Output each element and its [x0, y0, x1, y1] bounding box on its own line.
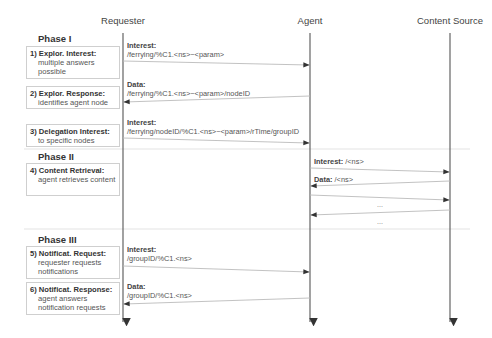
phase-2-title: Phase II	[38, 151, 74, 162]
lifelines	[123, 33, 450, 322]
message-name: /groupID/%C1.<ns>	[127, 291, 192, 300]
message-name: /<ns>	[343, 157, 364, 166]
message-name: /groupID/%C1.<ns>	[127, 254, 192, 263]
message-arrow	[310, 168, 449, 172]
step-description: to specific nodes	[30, 136, 116, 145]
step-heading: 5) Notificat. Request:	[30, 249, 106, 258]
ellipsis-1: ...	[377, 201, 383, 208]
phase-3-title: Phase III	[38, 234, 77, 245]
step-heading: 1) Explor. Interest:	[30, 49, 96, 58]
step-description: multiple answers possible	[30, 58, 116, 76]
step-description: requester requests notifications	[30, 258, 116, 276]
step-heading: 3) Delegation Interest:	[30, 127, 110, 136]
ellipsis-2: ...	[377, 218, 383, 225]
step-heading: 4) Content Retrieval:	[30, 166, 104, 175]
message-kind: Data:	[127, 80, 250, 89]
step-box-notification-response: 6) Notificat. Response:agent answers not…	[26, 282, 120, 315]
actor-requester: Requester	[101, 15, 145, 26]
step-box-content-retrieval: 4) Content Retrieval:agent retrieves con…	[26, 163, 120, 196]
message-name: /<ns>	[332, 175, 353, 184]
step-box-delegation-interest: 3) Delegation Interest:to specific nodes	[26, 124, 120, 147]
message-label-delegation-interest: Interest:/ferrying/nodeID/%C1.<ns>~<para…	[127, 118, 299, 136]
message-arrow	[123, 138, 309, 143]
message-kind: Interest:	[127, 245, 192, 254]
message-label-exploratory-interest: Interest:/ferrying/%C1.<ns>~<param>	[127, 41, 224, 59]
message-kind: Interest:	[127, 118, 299, 127]
message-kind: Data:	[314, 175, 332, 184]
message-arrow	[311, 210, 450, 215]
actor-content-source: Content Source	[417, 15, 483, 26]
message-name: /ferrying/nodeID/%C1.<ns>~<param>/rTime/…	[127, 127, 299, 136]
actor-agent: Agent	[298, 15, 323, 26]
message-label-content-data: Data: /<ns>	[314, 175, 353, 184]
step-heading: 6) Notificat. Response:	[30, 285, 112, 294]
message-name: /ferrying/%C1.<ns>~<param>	[127, 50, 224, 59]
message-kind: Interest:	[314, 157, 343, 166]
message-arrow	[310, 195, 449, 200]
step-description: identifies agent node	[30, 98, 116, 107]
message-arrow	[123, 61, 309, 65]
message-label-notification-interest: Interest:/groupID/%C1.<ns>	[127, 245, 192, 263]
message-arrow	[123, 266, 309, 272]
message-label-notification-data: Data:/groupID/%C1.<ns>	[127, 282, 192, 300]
step-description: agent retrieves content	[30, 175, 116, 184]
message-label-content-interest: Interest: /<ns>	[314, 157, 364, 166]
message-kind: Interest:	[127, 41, 224, 50]
phase-1-title: Phase I	[38, 33, 71, 44]
step-box-notification-request: 5) Notificat. Request:requester requests…	[26, 246, 120, 279]
message-label-exploratory-data: Data:/ferrying/%C1.<ns>~<param>/nodeID	[127, 80, 250, 98]
step-box-exploratory-interest: 1) Explor. Interest:multiple answers pos…	[26, 46, 120, 79]
message-name: /ferrying/%C1.<ns>~<param>/nodeID	[127, 89, 250, 98]
step-heading: 2) Explor. Response:	[30, 89, 105, 98]
step-box-exploratory-response: 2) Explor. Response:identifies agent nod…	[26, 86, 120, 109]
step-description: agent answers notification requests	[30, 294, 116, 312]
message-kind: Data:	[127, 282, 192, 291]
